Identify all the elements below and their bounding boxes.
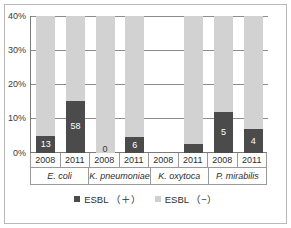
y-tick-label: 20% bbox=[0, 80, 26, 89]
bar-segment-esbl-negative[interactable] bbox=[96, 16, 115, 153]
bar-segment-esbl-negative[interactable] bbox=[214, 16, 233, 112]
year-axis-cell: 2011 bbox=[61, 153, 91, 168]
plot-wrapper: 13580654 bbox=[30, 16, 267, 153]
y-tick-label: 0% bbox=[0, 149, 26, 158]
bar-segment-esbl-negative[interactable] bbox=[66, 16, 85, 101]
species-axis-cell: E. coli bbox=[30, 168, 89, 185]
year-axis-cell: 2011 bbox=[179, 153, 209, 168]
bar-column[interactable]: 0 bbox=[90, 16, 120, 153]
species-axis-cell: K. oxytoca bbox=[151, 168, 209, 185]
species-axis-cell: K. pneumoniae bbox=[89, 168, 151, 185]
legend-swatch-icon bbox=[74, 196, 80, 202]
year-axis-cell: 2008 bbox=[149, 153, 179, 168]
bar-segment-esbl-positive[interactable]: 13 bbox=[36, 136, 55, 153]
chart-legend: ESBL （＋）ESBL （−） bbox=[4, 192, 287, 206]
legend-item[interactable]: ESBL （＋） bbox=[74, 192, 141, 206]
legend-label: ESBL （−） bbox=[165, 192, 217, 206]
bar-column[interactable]: 4 bbox=[238, 16, 268, 153]
y-tick-label: 40% bbox=[0, 12, 26, 21]
stacked-bar[interactable] bbox=[96, 16, 115, 153]
bar-value-label: 13 bbox=[41, 140, 51, 149]
bar-segment-esbl-positive[interactable]: 5 bbox=[214, 112, 233, 153]
year-axis-cell: 2008 bbox=[208, 153, 238, 168]
bar-segment-esbl-negative[interactable] bbox=[36, 16, 55, 136]
stacked-bar[interactable] bbox=[184, 16, 203, 153]
bar-segment-esbl-negative[interactable] bbox=[184, 16, 203, 144]
bar-segment-esbl-positive[interactable]: 58 bbox=[66, 101, 85, 153]
year-axis-cell: 2008 bbox=[30, 153, 61, 168]
bar-segment-esbl-positive[interactable]: 4 bbox=[244, 129, 263, 153]
y-tick-label: 10% bbox=[0, 114, 26, 123]
legend-item[interactable]: ESBL （−） bbox=[155, 192, 217, 206]
stacked-bar[interactable]: 6 bbox=[125, 16, 144, 153]
bar-column[interactable] bbox=[150, 16, 180, 153]
year-axis-cell: 2011 bbox=[120, 153, 150, 168]
stacked-bar[interactable]: 4 bbox=[244, 16, 263, 153]
stacked-bar[interactable]: 13 bbox=[36, 16, 55, 153]
bar-column[interactable]: 6 bbox=[120, 16, 150, 153]
bar-segment-esbl-positive[interactable]: 6 bbox=[125, 137, 144, 153]
bar-value-label: 6 bbox=[132, 141, 137, 150]
legend-swatch-icon bbox=[155, 196, 161, 202]
legend-label: ESBL （＋） bbox=[84, 192, 141, 206]
bar-column[interactable] bbox=[179, 16, 209, 153]
bar-value-label: 4 bbox=[251, 137, 256, 146]
bar-value-label: 5 bbox=[221, 128, 226, 137]
year-axis-row: 20082011200820112008201120082011 bbox=[30, 153, 267, 168]
year-axis-cell: 2011 bbox=[238, 153, 268, 168]
bar-segment-esbl-negative[interactable] bbox=[125, 16, 144, 137]
bar-value-label: 58 bbox=[70, 122, 80, 131]
bar-column[interactable]: 58 bbox=[61, 16, 91, 153]
bar-column[interactable]: 13 bbox=[31, 16, 61, 153]
bar-column[interactable]: 5 bbox=[209, 16, 239, 153]
stacked-bar[interactable]: 5 bbox=[214, 16, 233, 153]
chart-figure: 0%10%20%30%40% 13580654 2008201120082011… bbox=[0, 0, 291, 228]
species-axis-row: E. coliK. pneumoniaeK. oxytocaP. mirabil… bbox=[30, 168, 267, 185]
bar-segment-esbl-negative[interactable] bbox=[244, 16, 263, 129]
y-tick-label: 30% bbox=[0, 46, 26, 55]
stacked-bar[interactable]: 58 bbox=[66, 16, 85, 153]
year-axis-cell: 2008 bbox=[90, 153, 120, 168]
plot-area: 13580654 bbox=[30, 16, 267, 153]
bar-segment-esbl-positive[interactable] bbox=[184, 144, 203, 153]
species-axis-cell: P. mirabilis bbox=[209, 168, 267, 185]
bar-columns: 13580654 bbox=[31, 16, 268, 153]
